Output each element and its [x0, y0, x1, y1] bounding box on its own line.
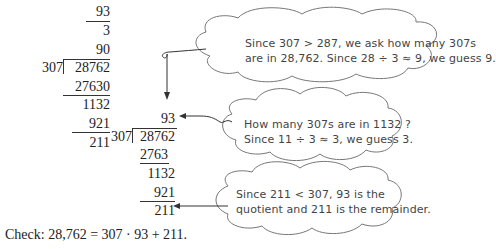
cloud-1-line-1: Since 307 > 287, we ask how many 307s: [245, 36, 496, 51]
arrowhead-icon: [179, 113, 186, 119]
cloud-3-text: Since 211 < 307, 93 is the quotient and …: [236, 187, 431, 217]
check-equation: Check: 28,762 = 307 · 93 + 211.: [5, 228, 187, 242]
arrowhead-icon: [164, 92, 170, 100]
cloud-3-line-2: quotient and 211 is the remainder.: [236, 202, 431, 217]
arrow-curl-1: [162, 49, 206, 94]
arrowhead-icon: [173, 203, 180, 209]
cloud-3-line-1: Since 211 < 307, 93 is the: [236, 187, 431, 202]
cloud-1-line-2: are in 28,762. Since 28 ÷ 3 ≈ 9, we gues…: [245, 51, 496, 66]
cloud-1-text: Since 307 > 287, we ask how many 307s ar…: [245, 36, 496, 66]
cloud-2-text: How many 307s are in 1132 ? Since 11 ÷ 3…: [244, 117, 413, 147]
cloud-2-line-1: How many 307s are in 1132 ?: [244, 117, 413, 132]
cloud-2-line-2: Since 11 ÷ 3 ≈ 3, we guess 3.: [244, 132, 413, 147]
